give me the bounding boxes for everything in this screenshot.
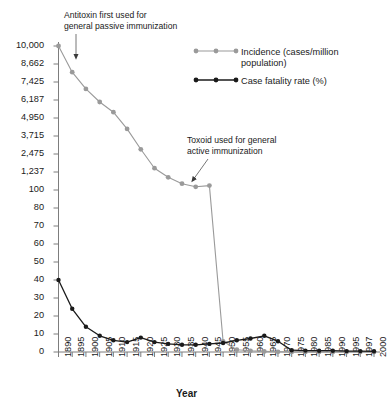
data-point-fatality xyxy=(84,325,88,329)
series-line-fatality xyxy=(59,280,375,351)
data-point-fatality xyxy=(180,343,184,347)
legend-incidence-marker xyxy=(214,49,219,54)
data-point-incidence xyxy=(276,349,281,354)
legend-incidence-marker xyxy=(234,49,239,54)
data-point-fatality xyxy=(194,343,198,347)
data-point-incidence xyxy=(125,126,130,131)
data-point-incidence xyxy=(138,147,143,152)
data-point-fatality xyxy=(111,338,115,342)
data-point-incidence xyxy=(193,184,198,189)
chart-plot-area xyxy=(0,0,388,411)
data-point-fatality xyxy=(331,349,335,353)
annotation-arrow-toxoid xyxy=(193,159,208,180)
data-point-fatality xyxy=(98,334,102,338)
data-point-fatality xyxy=(344,349,348,353)
data-point-fatality xyxy=(125,340,129,344)
data-point-fatality xyxy=(166,342,170,346)
data-point-fatality xyxy=(70,307,74,311)
data-point-incidence xyxy=(84,87,89,92)
data-point-fatality xyxy=(207,342,211,346)
data-point-incidence xyxy=(262,349,267,354)
data-point-fatality xyxy=(248,336,252,340)
data-point-incidence xyxy=(234,347,239,352)
legend-incidence-marker xyxy=(194,49,199,54)
data-point-incidence xyxy=(97,100,102,105)
data-point-fatality xyxy=(221,341,225,345)
data-point-incidence xyxy=(111,110,116,115)
data-point-fatality xyxy=(56,278,60,282)
data-point-fatality xyxy=(139,335,143,339)
data-point-fatality xyxy=(372,349,376,353)
data-point-fatality xyxy=(290,348,294,352)
data-point-incidence xyxy=(166,175,171,180)
series-line-incidence xyxy=(59,46,375,352)
data-point-fatality xyxy=(317,349,321,353)
data-point-incidence xyxy=(180,181,185,186)
data-point-fatality xyxy=(303,348,307,352)
data-point-fatality xyxy=(152,340,156,344)
data-point-incidence xyxy=(207,183,212,188)
data-point-incidence xyxy=(56,44,61,49)
chart-figure: 10,0008,6627,4256,1874,9503,7152,4751,23… xyxy=(0,0,388,411)
data-point-fatality xyxy=(276,339,280,343)
legend-fatality-marker xyxy=(234,78,239,83)
data-point-fatality xyxy=(262,334,266,338)
legend-fatality-marker xyxy=(214,78,219,83)
legend-fatality-marker xyxy=(194,78,199,83)
data-point-fatality xyxy=(358,349,362,353)
data-point-fatality xyxy=(235,338,239,342)
data-point-incidence xyxy=(152,166,157,171)
data-point-incidence xyxy=(70,70,75,75)
data-point-incidence xyxy=(248,348,253,353)
